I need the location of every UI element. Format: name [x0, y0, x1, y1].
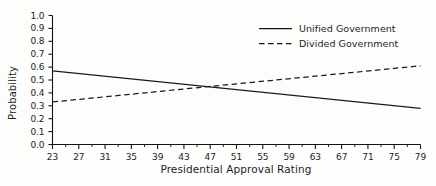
x-tick-label: 31: [95, 152, 115, 162]
y-tick-label: 0.2: [21, 114, 45, 124]
legend-label-2: Divided Government: [299, 38, 398, 49]
y-tick-label: 0.5: [21, 75, 45, 85]
legend: [259, 29, 292, 44]
x-tick-label: 63: [305, 152, 325, 162]
x-tick-label: 79: [411, 152, 431, 162]
y-tick-label: 1.0: [21, 11, 45, 21]
series-line-1: [53, 71, 421, 108]
axes: [49, 16, 421, 150]
x-tick-label: 35: [121, 152, 141, 162]
x-tick-label: 51: [227, 152, 247, 162]
x-tick-label: 43: [174, 152, 194, 162]
x-tick-label: 67: [332, 152, 352, 162]
y-tick-label: 0.4: [21, 88, 45, 98]
data-series: [53, 66, 421, 109]
y-tick-label: 0.9: [21, 23, 45, 33]
x-tick-label: 59: [279, 152, 299, 162]
y-tick-label: 0.0: [21, 140, 45, 150]
y-tick-label: 0.3: [21, 101, 45, 111]
x-tick-label: 23: [43, 152, 63, 162]
x-tick-label: 75: [384, 152, 404, 162]
chart-figure: Probability Presidential Approval Rating…: [0, 0, 436, 186]
legend-label-1: Unified Government: [299, 23, 396, 34]
series-line-2: [53, 66, 421, 102]
y-tick-label: 0.8: [21, 36, 45, 46]
y-tick-label: 0.7: [21, 49, 45, 59]
y-tick-label: 0.6: [21, 62, 45, 72]
x-tick-label: 55: [253, 152, 273, 162]
y-tick-label: 0.1: [21, 127, 45, 137]
x-tick-label: 71: [358, 152, 378, 162]
x-tick-label: 27: [69, 152, 89, 162]
x-tick-label: 39: [148, 152, 168, 162]
x-tick-label: 47: [200, 152, 220, 162]
